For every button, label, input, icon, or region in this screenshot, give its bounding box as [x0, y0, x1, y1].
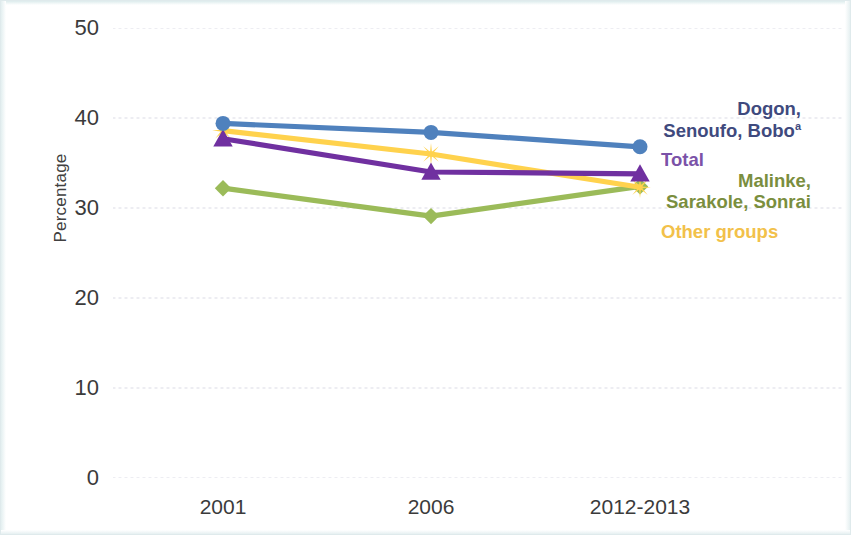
gridlines — [113, 28, 841, 478]
series-label-other-groups: Other groups — [661, 222, 778, 243]
page-edge-top — [1, 1, 851, 5]
series-label-malinke-line1: Malinke, — [561, 171, 811, 192]
data-point-marker — [424, 125, 439, 140]
y-tick-40: 40 — [53, 107, 99, 129]
line-chart-svg — [113, 28, 847, 478]
y-tick-50: 50 — [53, 17, 99, 39]
y-axis-ticks: 50 40 30 20 10 0 — [53, 1, 99, 535]
data-point-marker — [423, 208, 439, 224]
data-point-marker — [420, 143, 442, 165]
x-tick-2001: 2001 — [200, 495, 247, 519]
series-label-malinke-line2: Sarakole, Sonrai — [561, 192, 811, 213]
series-label-dogon-senoufo-bobo: Dogon, Senoufo, Boboa — [561, 99, 801, 142]
data-point-marker — [216, 116, 231, 131]
footnote-marker-a: a — [795, 120, 801, 132]
y-tick-0: 0 — [53, 467, 99, 489]
series-label-dogon-line1: Dogon, — [561, 99, 801, 120]
y-tick-30: 30 — [53, 197, 99, 219]
series-label-malinke-sarakole-sonrai: Malinke, Sarakole, Sonrai — [561, 171, 811, 212]
series-label-dogon-line2: Senoufo, Boboa — [561, 120, 801, 142]
x-tick-2006: 2006 — [408, 495, 455, 519]
data-point-marker — [215, 180, 231, 196]
y-tick-10: 10 — [53, 377, 99, 399]
y-tick-20: 20 — [53, 287, 99, 309]
plot-area — [113, 28, 847, 478]
page-edge-bottom — [1, 530, 851, 534]
x-tick-2012-2013: 2012-2013 — [590, 495, 690, 519]
series-label-total: Total — [661, 150, 704, 171]
chart-figure: Percentage 50 40 30 20 10 0 2001 2006 20… — [0, 0, 851, 535]
page-edge-left — [1, 1, 6, 535]
